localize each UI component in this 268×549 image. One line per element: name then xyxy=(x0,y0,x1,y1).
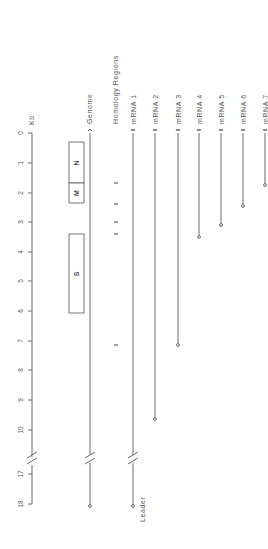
svg-text:7: 7 xyxy=(17,339,24,343)
mrna-7-track xyxy=(264,133,267,186)
svg-text:2: 2 xyxy=(17,191,24,195)
svg-text:8: 8 xyxy=(17,368,24,372)
svg-text:4: 4 xyxy=(17,250,24,254)
gene-label-m: M xyxy=(73,190,80,196)
gene-boxes xyxy=(69,142,84,313)
mrna-7-label: mRNA 7 xyxy=(262,94,268,124)
homology-marks xyxy=(114,183,118,345)
svg-text:9: 9 xyxy=(17,398,24,402)
svg-text:17: 17 xyxy=(17,470,24,478)
homology-label: Homology Regions xyxy=(112,55,120,124)
coronavirus-genome-diagram: 0 1 2 3 4 5 6 7 8 9 10 17 18 Kb N M S Ge… xyxy=(0,0,268,549)
cap-markers xyxy=(131,129,267,131)
gene-label-n: N xyxy=(73,160,80,165)
mrna-6-track xyxy=(242,133,245,207)
mrna-2-track xyxy=(154,133,157,420)
svg-text:10: 10 xyxy=(17,426,24,434)
svg-text:3: 3 xyxy=(17,220,24,224)
svg-text:18: 18 xyxy=(17,500,24,508)
svg-text:6: 6 xyxy=(17,309,24,313)
mrna-5-label: mRNA 5 xyxy=(218,94,225,124)
mrna-5-track xyxy=(220,133,223,226)
mrna-6-label: mRNA 6 xyxy=(240,94,247,124)
mrna-3-track xyxy=(177,133,180,346)
gene-label-s: S xyxy=(73,271,80,276)
kb-axis xyxy=(27,133,37,504)
leader-label: Leader xyxy=(139,497,146,522)
svg-text:1: 1 xyxy=(17,161,24,165)
svg-text:5: 5 xyxy=(17,279,24,283)
mrna-4-label: mRNA 4 xyxy=(196,94,203,124)
genome-label: Genome xyxy=(86,94,93,124)
mrna-1-track xyxy=(128,133,138,507)
kb-unit-label: Kb xyxy=(28,115,35,125)
mrna-4-track xyxy=(198,133,201,238)
genome-track xyxy=(85,129,95,507)
svg-text:0: 0 xyxy=(17,131,24,135)
mrna-3-label: mRNA 3 xyxy=(175,94,182,124)
mrna-1-label: mRNA 1 xyxy=(130,94,137,124)
mrna-2-label: mRNA 2 xyxy=(152,94,159,124)
